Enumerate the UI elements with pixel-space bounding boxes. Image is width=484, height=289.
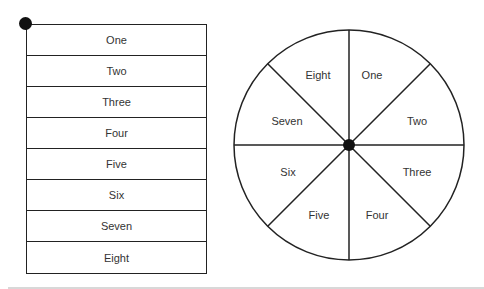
segment-label: Three xyxy=(403,166,432,178)
wheel-center-dot xyxy=(343,139,355,151)
segment-label: Seven xyxy=(271,115,302,127)
segment-label: Two xyxy=(407,115,427,127)
segment-label: Four xyxy=(366,209,389,221)
segment-label: Five xyxy=(309,209,330,221)
segment-label: Eight xyxy=(305,69,330,81)
segment-label: One xyxy=(362,69,383,81)
circular-wheel: One Two Three Four Five Six Seven Eight xyxy=(0,0,484,289)
segment-label: Six xyxy=(280,166,296,178)
